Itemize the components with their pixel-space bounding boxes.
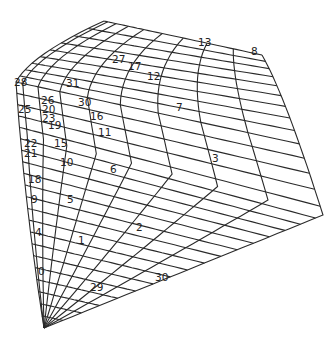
mesh-line (26, 197, 237, 250)
node-label: 9 (31, 193, 38, 205)
node-label: 13 (198, 36, 211, 48)
node-label: 8 (251, 45, 258, 57)
node-label: 21 (24, 147, 37, 159)
mesh-line (31, 232, 188, 270)
node-label: 16 (90, 110, 104, 122)
mesh-line (34, 256, 154, 284)
mesh-line (44, 49, 268, 328)
node-label: 12 (147, 70, 160, 82)
mesh-line (25, 185, 253, 243)
node-label: 17 (128, 60, 141, 72)
mesh-line (44, 38, 183, 328)
node-label: 7 (176, 101, 183, 113)
node-label: 1 (78, 234, 85, 246)
node-label: 10 (60, 156, 73, 168)
node-label: 19 (48, 119, 61, 131)
node-label: 5 (67, 193, 74, 205)
node-label: 25 (18, 103, 31, 115)
mesh-diagram: 2825263120231930161127171213872221151063… (0, 0, 336, 337)
node-label: 27 (112, 53, 125, 65)
node-label: 2 (136, 221, 143, 233)
mesh-line (29, 220, 204, 263)
node-label: 15 (54, 137, 67, 149)
mesh-line (104, 21, 262, 55)
node-label: 29 (90, 281, 103, 293)
node-label: 0 (38, 265, 45, 277)
mesh-line (44, 26, 128, 328)
node-label: 31 (66, 77, 79, 89)
node-label: 11 (98, 126, 111, 138)
node-label: 3 (212, 152, 219, 164)
mesh-grid (16, 21, 323, 328)
node-label: 4 (35, 226, 42, 238)
node-label: 30 (155, 271, 168, 283)
node-label: 18 (28, 173, 41, 185)
node-label: 6 (110, 163, 117, 175)
node-label: 30 (78, 96, 91, 108)
mesh-line (61, 43, 273, 77)
node-label: 28 (14, 76, 27, 88)
